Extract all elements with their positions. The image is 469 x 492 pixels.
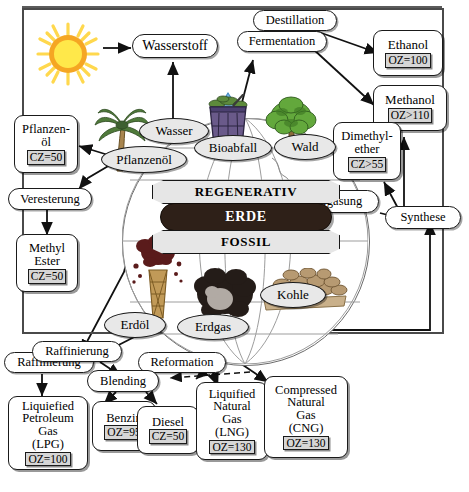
node-wald[interactable]: Wald bbox=[274, 134, 336, 160]
node-kohle[interactable]: Kohle bbox=[260, 282, 326, 308]
node-destillation[interactable]: Destillation bbox=[253, 10, 337, 31]
node-erdgas[interactable]: Erdgas bbox=[177, 314, 249, 340]
node-ethanol[interactable]: Ethanol OZ=100 bbox=[373, 30, 443, 76]
node-cng[interactable]: Compressed Natural Gas (CNG) OZ=130 bbox=[264, 376, 348, 458]
node-bioabfall-label: Bioabfall bbox=[209, 141, 257, 154]
node-wasserstoff[interactable]: Wasserstoff bbox=[132, 34, 218, 58]
node-lng-label-3: Gas bbox=[222, 413, 241, 426]
node-wald-label: Wald bbox=[291, 140, 318, 153]
sun-icon bbox=[36, 22, 100, 86]
node-bioabfall[interactable]: Bioabfall bbox=[194, 135, 272, 161]
node-wasser[interactable]: Wasser bbox=[139, 118, 209, 144]
node-methylester[interactable]: Methyl Ester CZ=50 bbox=[16, 234, 78, 292]
node-methanol-value: OZ>110 bbox=[388, 108, 433, 123]
gas-cloud-icon bbox=[192, 268, 258, 320]
node-kohle-label: Kohle bbox=[277, 288, 309, 301]
node-cng-label-3: Gas bbox=[296, 409, 315, 422]
node-pflanzenoel-source-label: Pflanzenöl bbox=[116, 153, 172, 166]
node-erdoel-label: Erdöl bbox=[121, 318, 150, 331]
diagram-canvas: REGENERATIV ERDE FOSSIL bbox=[0, 0, 469, 492]
node-diesel[interactable]: Diesel CZ=50 bbox=[137, 406, 199, 454]
node-synthese[interactable]: Synthese bbox=[385, 206, 461, 229]
node-lng[interactable]: Liquified Natural Gas (LNG) OZ=130 bbox=[196, 382, 268, 460]
node-methylester-label-2: Ester bbox=[34, 255, 60, 268]
node-dimethylether-label-2: ether bbox=[355, 143, 380, 156]
node-methanol-label: Methanol bbox=[385, 93, 435, 106]
node-fermentation-label: Fermentation bbox=[249, 35, 316, 48]
node-veresterung-label: Veresterung bbox=[20, 193, 80, 206]
node-raffinierung-upper[interactable]: Raffinierung bbox=[32, 341, 122, 362]
node-pflanzenoel-fuel-value: CZ=50 bbox=[27, 150, 66, 165]
node-synthese-label: Synthese bbox=[400, 211, 445, 224]
node-ethanol-label: Ethanol bbox=[388, 38, 428, 51]
node-wasser-label: Wasser bbox=[155, 124, 192, 137]
node-blending[interactable]: Blending bbox=[87, 370, 159, 392]
banner-fossil-label: FOSSIL bbox=[221, 234, 271, 250]
node-fermentation[interactable]: Fermentation bbox=[237, 31, 327, 52]
node-destillation-label: Destillation bbox=[266, 14, 324, 27]
node-erdoel[interactable]: Erdöl bbox=[104, 312, 166, 338]
node-wasserstoff-label: Wasserstoff bbox=[142, 39, 208, 53]
banner-regenerativ: REGENERATIV bbox=[152, 180, 340, 204]
banner-erde-label: ERDE bbox=[225, 209, 266, 225]
node-dimethylether[interactable]: Dimethyl- ether CZ>55 bbox=[333, 122, 401, 180]
node-lng-value: OZ=130 bbox=[209, 440, 254, 455]
node-raffinierung-upper-label: Raffinierung bbox=[45, 345, 109, 358]
node-methylester-value: CZ=50 bbox=[28, 269, 67, 284]
node-diesel-value: CZ=50 bbox=[149, 429, 188, 444]
node-pflanzenoel-source[interactable]: Pflanzenöl bbox=[101, 146, 187, 173]
node-erdgas-label: Erdgas bbox=[195, 320, 231, 333]
banner-fossil: FOSSIL bbox=[152, 230, 340, 254]
node-dimethylether-value: CZ>55 bbox=[348, 157, 387, 172]
node-lng-label-4: (LNG) bbox=[215, 426, 249, 439]
node-cng-label-4: (CNG) bbox=[289, 422, 324, 435]
node-lpg-label-4: (LPG) bbox=[32, 438, 64, 451]
node-lpg-label-3: Gas bbox=[38, 425, 57, 438]
node-pflanzenoel-fuel-label-2: öl bbox=[41, 136, 51, 149]
node-diesel-label: Diesel bbox=[152, 416, 184, 429]
banner-regenerativ-label: REGENERATIV bbox=[195, 184, 297, 200]
node-cng-value: OZ=130 bbox=[283, 436, 328, 451]
banner-erde: ERDE bbox=[160, 203, 332, 231]
node-lpg[interactable]: Liquiefied Petroleum Gas (LPG) OZ=100 bbox=[8, 396, 88, 470]
node-veresterung[interactable]: Veresterung bbox=[8, 188, 92, 210]
node-blending-label: Blending bbox=[100, 375, 146, 388]
node-pflanzenoel-fuel[interactable]: Pflanzen- öl CZ=50 bbox=[14, 115, 78, 173]
node-lpg-value: OZ=100 bbox=[25, 452, 70, 467]
node-reformation-label: Reformation bbox=[150, 356, 213, 369]
node-ethanol-value: OZ=100 bbox=[385, 53, 430, 68]
